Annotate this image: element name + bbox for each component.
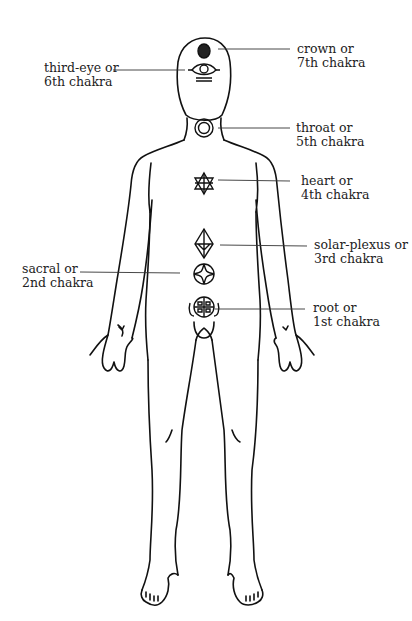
label-sacral: sacral or 2nd chakra: [22, 262, 93, 290]
label-root: root or 1st chakra: [313, 301, 380, 329]
left-hand-outline: [90, 325, 133, 371]
throat-chakra-symbol: [195, 119, 213, 137]
heart-leader-line: [218, 180, 290, 181]
heart-chakra-symbol: [195, 173, 213, 194]
solar-plexus-chakra-symbol: [195, 229, 213, 258]
label-heart: heart or 4th chakra: [301, 174, 370, 202]
label-throat: throat or 5th chakra: [296, 121, 365, 149]
root-chakra-symbol: [189, 297, 219, 317]
sacral-leader-line: [80, 272, 180, 273]
torso-left: [146, 212, 150, 360]
crown-chakra-symbol: [198, 44, 210, 58]
right-leg-outline: [212, 340, 262, 590]
sacral-chakra-symbol: [194, 264, 214, 284]
solar-plexus-leader-line: [220, 245, 307, 246]
third-eye-chakra-symbol: [188, 64, 220, 81]
right-hand-outline: [274, 326, 314, 371]
left-leg-outline: [142, 340, 196, 590]
label-crown: crown or 7th chakra: [297, 42, 366, 70]
label-third-eye: third-eye or 6th chakra: [44, 61, 119, 89]
label-solar-plexus: solar-plexus or 3rd chakra: [314, 238, 408, 266]
